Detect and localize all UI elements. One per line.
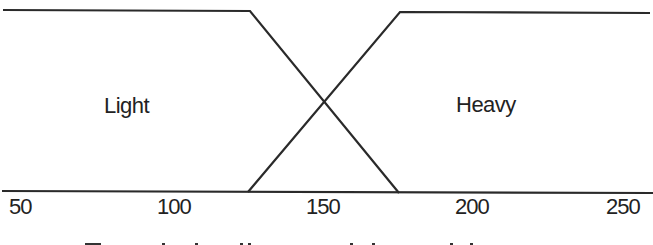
x-tick-100: 100 <box>157 194 191 220</box>
x-tick-150: 150 <box>306 194 340 220</box>
heavy-membership-line <box>248 12 650 192</box>
x-tick-250: 250 <box>606 194 640 220</box>
heavy-label: Heavy <box>456 92 516 118</box>
caption-clipped <box>0 240 653 245</box>
x-tick-50: 50 <box>9 194 31 220</box>
x-axis-line <box>2 191 653 193</box>
x-tick-200: 200 <box>455 194 489 220</box>
light-label: Light <box>104 93 149 119</box>
caption-glyph-tops <box>0 241 653 245</box>
light-membership-line <box>3 10 399 193</box>
